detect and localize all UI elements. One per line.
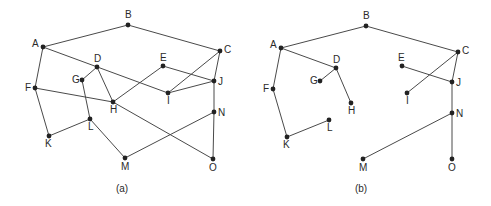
node-label-j: J (218, 76, 223, 87)
node-label-k: K (283, 139, 290, 150)
node-label-g: G (72, 74, 80, 85)
node-label-h: H (348, 105, 355, 116)
node-label-d: D (333, 54, 340, 65)
edge-k-l (287, 120, 329, 137)
edge-a-f (35, 47, 43, 88)
node-label-g: G (310, 75, 318, 86)
node-label-n: N (456, 108, 463, 119)
edge-g-l (82, 80, 90, 119)
node-a (41, 45, 46, 50)
graph-a-edges (35, 25, 220, 159)
node-label-m: M (121, 161, 129, 172)
edge-b-c (366, 26, 458, 52)
node-c (456, 50, 461, 55)
node-o (450, 157, 455, 162)
node-label-l: L (327, 122, 333, 133)
edge-k-l (49, 119, 90, 136)
edge-a-b (43, 25, 128, 47)
graph-figure: ABCDEFGHIJKLMNO (a) ABCDEFGHIJKLMNO (b) (0, 0, 491, 206)
node-d (95, 65, 100, 70)
node-label-d: D (94, 53, 101, 64)
node-label-a: A (32, 38, 39, 49)
node-n (212, 110, 217, 115)
node-j (212, 79, 217, 84)
node-g (318, 79, 323, 84)
edge-n-o (213, 112, 214, 159)
node-j (450, 80, 455, 85)
node-e (161, 64, 166, 69)
node-b (126, 23, 131, 28)
node-label-o: O (448, 162, 456, 173)
node-label-k: K (45, 138, 52, 149)
edge-e-h (113, 66, 163, 102)
edge-a-f (273, 48, 281, 89)
edge-d-h (336, 68, 351, 103)
edge-f-k (35, 88, 49, 136)
node-label-f: F (25, 82, 31, 93)
node-m (361, 157, 366, 162)
edge-l-m (90, 119, 125, 158)
edge-d-g (82, 67, 97, 80)
graph-b-caption: (b) (355, 183, 367, 194)
edge-h-o (113, 102, 213, 159)
node-label-j: J (456, 77, 461, 88)
edge-a-b (281, 26, 366, 48)
edge-d-g (320, 68, 336, 81)
graph-a-caption: (a) (116, 183, 128, 194)
node-g (80, 78, 85, 83)
graph-b-edges (273, 26, 458, 159)
node-label-m: M (359, 162, 367, 173)
node-label-n: N (218, 107, 225, 118)
node-label-i: I (167, 95, 170, 106)
node-label-i: I (406, 95, 409, 106)
node-e (400, 64, 405, 69)
node-f (271, 87, 276, 92)
edge-a-d (281, 48, 336, 68)
node-n (450, 111, 455, 116)
node-d (334, 66, 339, 71)
node-c (218, 49, 223, 54)
edge-m-n (125, 112, 214, 158)
node-label-e: E (398, 52, 405, 63)
edge-b-c (128, 25, 220, 51)
node-label-c: C (462, 45, 469, 56)
edge-e-j (163, 66, 214, 81)
node-m (123, 156, 128, 161)
edge-n-m (363, 113, 452, 159)
node-label-e: E (160, 52, 167, 63)
node-a (279, 46, 284, 51)
edge-f-h (35, 88, 113, 102)
node-o (211, 157, 216, 162)
node-label-b: B (363, 10, 370, 21)
edge-f-k (273, 89, 287, 137)
graph-a: ABCDEFGHIJKLMNO (a) (25, 9, 231, 194)
node-label-c: C (224, 44, 231, 55)
node-label-o: O (209, 162, 217, 173)
node-f (33, 86, 38, 91)
node-label-a: A (270, 39, 277, 50)
edge-c-i (407, 52, 458, 93)
node-label-l: L (88, 121, 94, 132)
node-b (364, 24, 369, 29)
node-label-f: F (263, 83, 269, 94)
graph-b: ABCDEFGHIJKLMNO (b) (263, 10, 469, 194)
graph-b-nodes: ABCDEFGHIJKLMNO (263, 10, 469, 173)
edge-e-j (402, 66, 452, 82)
node-label-b: B (125, 9, 132, 20)
node-label-h: H (110, 104, 117, 115)
